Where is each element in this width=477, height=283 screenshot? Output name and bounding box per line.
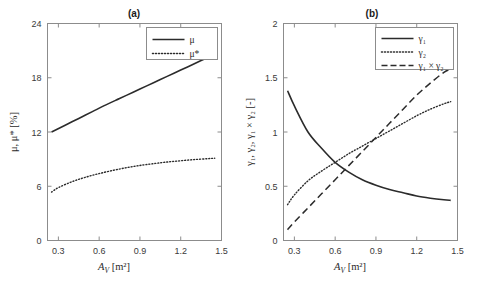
panel-b-series-2 (288, 69, 451, 230)
panel-b-xtick-4: 1.5 (451, 246, 464, 256)
panel-a-xlabel-unit: [m²] (112, 261, 130, 272)
panel-b-legend-label-2: γ₁ × γ₂ (418, 61, 444, 71)
panel-b-xtick-0: 0.3 (288, 246, 301, 256)
panel-a-ytick-1: 6 (36, 182, 41, 192)
svg-text:AV [m²]: AV [m²] (333, 261, 366, 275)
panel-a-ytick-0: 0 (36, 236, 41, 246)
panel-a-ytick-2: 12 (31, 128, 41, 138)
panel-a-ylabel: μ, μ* [%] (8, 112, 19, 152)
panel-a-legend-box (147, 28, 218, 60)
figure-canvas: (a) 0.30.60.91.21.506121824 AV [m²] μ, μ… (0, 0, 477, 283)
panel-b-title: (b) (366, 8, 379, 19)
panel-a: (a) 0.30.60.91.21.506121824 AV [m²] μ, μ… (8, 8, 228, 275)
panel-b-ytick-2: 1 (272, 128, 277, 138)
panel-a-legend[interactable]: μμ* (147, 28, 218, 60)
panel-b-series-0 (288, 91, 451, 201)
panel-b-xtick-3: 1.2 (410, 246, 423, 256)
panel-a-xtick-4: 1.5 (215, 246, 228, 256)
panel-a-xtick-1: 0.6 (93, 246, 106, 256)
panel-b: (b) 0.30.60.91.21.500.511.52 AV [m²] γ₁,… (244, 8, 464, 275)
panel-b-legend[interactable]: γ₁γ₂γ₁ × γ₂ (376, 28, 454, 72)
panel-b-legend-label-1: γ₂ (418, 48, 427, 58)
panel-a-yaxis-title: μ, μ* [%] (8, 112, 19, 152)
panel-b-ytick-3: 1.5 (265, 73, 278, 83)
panel-b-ytick-0: 0 (272, 236, 277, 246)
panel-b-ytick-4: 2 (272, 19, 277, 29)
panel-b-xaxis-title: AV [m²] (333, 261, 366, 275)
panel-b-ylabel: γ₁, γ₂, γ₁ × γ₂ [-] (244, 98, 255, 167)
panel-a-title: (a) (128, 8, 140, 19)
panel-b-xtick-2: 0.9 (370, 246, 383, 256)
panel-a-curves (52, 54, 215, 192)
panel-a-ytick-4: 24 (31, 19, 41, 29)
two-panel-line-chart: (a) 0.30.60.91.21.506121824 AV [m²] μ, μ… (0, 0, 477, 283)
panel-b-xtick-1: 0.6 (329, 246, 342, 256)
panel-a-xtick-0: 0.3 (52, 246, 65, 256)
panel-a-series-0 (52, 54, 215, 132)
panel-a-legend-label-0: μ (190, 35, 195, 45)
svg-text:AV [m²]: AV [m²] (97, 261, 130, 275)
panel-a-xaxis-title: AV [m²] (97, 261, 130, 275)
panel-b-curves (288, 69, 451, 230)
panel-b-series-1 (288, 102, 451, 205)
panel-a-legend-label-1: μ* (190, 49, 200, 59)
panel-b-yaxis-title: γ₁, γ₂, γ₁ × γ₂ [-] (244, 98, 255, 167)
panel-b-ytick-1: 0.5 (265, 182, 278, 192)
panel-a-series-1 (52, 158, 215, 192)
panel-a-ytick-3: 18 (31, 73, 41, 83)
panel-a-xtick-3: 1.2 (174, 246, 187, 256)
panel-a-xtick-2: 0.9 (134, 246, 147, 256)
panel-b-legend-label-0: γ₁ (418, 34, 427, 44)
panel-b-xlabel-unit: [m²] (348, 261, 366, 272)
